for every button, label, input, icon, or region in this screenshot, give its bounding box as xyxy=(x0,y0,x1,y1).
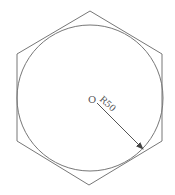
radius-dimension-arrow xyxy=(97,103,143,149)
radius-label: R50 xyxy=(98,94,118,114)
center-point-label: O xyxy=(88,94,96,105)
diagram-canvas: O R50 xyxy=(0,0,175,195)
